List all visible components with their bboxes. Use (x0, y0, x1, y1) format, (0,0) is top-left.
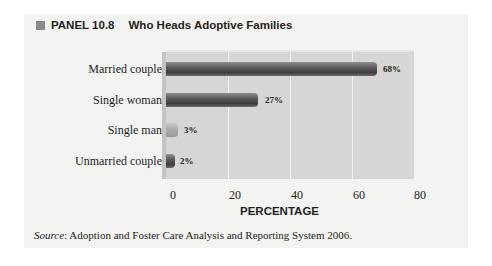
source-label: Source (34, 229, 64, 241)
x-tick: 40 (291, 188, 303, 203)
value-label: 27% (265, 95, 283, 105)
bar-unmarried-couple (166, 154, 175, 168)
square-bullet-icon (36, 21, 45, 30)
chart-title: Who Heads Adoptive Families (129, 19, 293, 31)
bar-married-couple (166, 62, 377, 76)
x-tick: 80 (414, 188, 426, 203)
value-label: 68% (383, 64, 401, 74)
x-axis-label: PERCENTAGE (240, 205, 319, 217)
bar-single-man (166, 123, 178, 137)
source-note: Source: Adoption and Foster Care Analysi… (34, 229, 352, 241)
category-label: Unmarried couple (75, 154, 162, 169)
panel-number: PANEL 10.8 (51, 19, 115, 31)
x-tick: 0 (170, 188, 176, 203)
category-label: Single woman (93, 93, 162, 108)
value-label: 2% (180, 156, 194, 166)
plot-area: 68% 27% 3% 2% (166, 50, 414, 179)
category-label: Single man (108, 123, 162, 138)
x-tick: 20 (229, 188, 241, 203)
bar-single-woman (166, 93, 258, 107)
category-label: Married couple (88, 62, 162, 77)
panel-title: PANEL 10.8 Who Heads Adoptive Families (36, 19, 292, 31)
value-label: 3% (184, 125, 198, 135)
x-tick: 60 (353, 188, 365, 203)
source-text: : Adoption and Foster Care Analysis and … (64, 229, 352, 241)
